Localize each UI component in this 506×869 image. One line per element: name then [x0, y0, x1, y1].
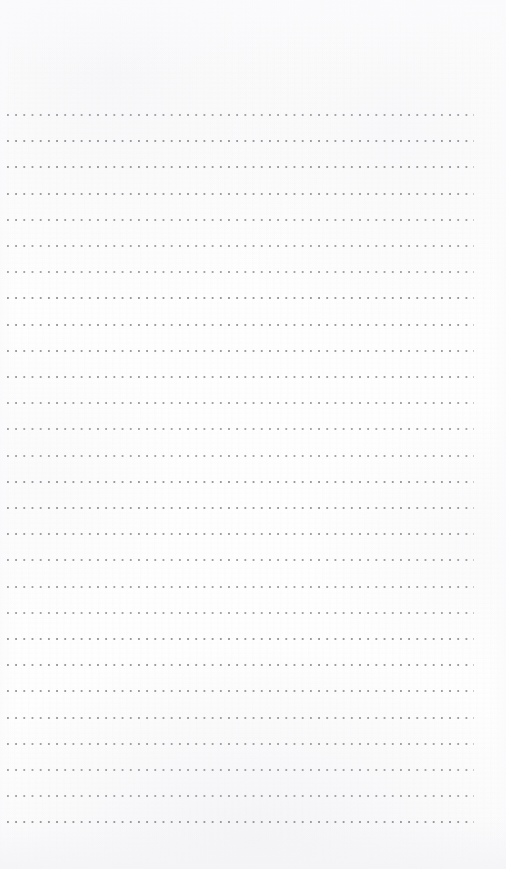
- ruled-dotted-line: [7, 350, 472, 352]
- ruled-line-end-dot: [473, 455, 474, 457]
- ruled-line-end-dot: [473, 821, 474, 823]
- ruled-dotted-line: [7, 507, 472, 509]
- ruled-line-end-dot: [473, 324, 474, 326]
- ruled-dotted-line: [7, 402, 472, 404]
- ruled-dotted-line: [7, 664, 472, 666]
- ruled-line-end-dot: [473, 586, 474, 588]
- ruled-line-end-dot: [473, 638, 474, 640]
- ruled-line-end-dot: [473, 507, 474, 509]
- ruled-line-end-dot: [473, 533, 474, 535]
- ruled-line-end-dot: [473, 428, 474, 430]
- ruled-dotted-line: [7, 586, 472, 588]
- ruled-line-end-dot: [473, 612, 474, 614]
- ruled-line-end-dot: [473, 271, 474, 273]
- ruled-dotted-line: [7, 717, 472, 719]
- ruled-dotted-line: [7, 533, 472, 535]
- ruled-line-end-dot: [473, 795, 474, 797]
- ruled-dotted-line: [7, 559, 472, 561]
- ruled-dotted-line: [7, 376, 472, 378]
- ruled-dotted-line: [7, 638, 472, 640]
- dotted-ruling-area: [0, 0, 506, 869]
- ruled-line-end-dot: [473, 690, 474, 692]
- ruled-dotted-line: [7, 324, 472, 326]
- ruled-dotted-line: [7, 271, 472, 273]
- ruled-line-end-dot: [473, 376, 474, 378]
- ruled-dotted-line: [7, 140, 472, 142]
- ruled-dotted-line: [7, 297, 472, 299]
- ruled-line-end-dot: [473, 297, 474, 299]
- ruled-dotted-line: [7, 612, 472, 614]
- ruled-line-end-dot: [473, 559, 474, 561]
- ruled-line-end-dot: [473, 481, 474, 483]
- ruled-dotted-line: [7, 481, 472, 483]
- ruled-dotted-line: [7, 428, 472, 430]
- ruled-line-end-dot: [473, 166, 474, 168]
- ruled-dotted-line: [7, 821, 472, 823]
- ruled-dotted-line: [7, 690, 472, 692]
- ruled-line-end-dot: [473, 219, 474, 221]
- ruled-line-end-dot: [473, 743, 474, 745]
- ruled-line-end-dot: [473, 350, 474, 352]
- ruled-dotted-line: [7, 795, 472, 797]
- notebook-page: [0, 0, 506, 869]
- ruled-dotted-line: [7, 166, 472, 168]
- ruled-line-end-dot: [473, 245, 474, 247]
- ruled-dotted-line: [7, 743, 472, 745]
- ruled-line-end-dot: [473, 193, 474, 195]
- bottom-margin-area: [0, 832, 506, 869]
- ruled-line-end-dot: [473, 140, 474, 142]
- ruled-line-end-dot: [473, 664, 474, 666]
- ruled-dotted-line: [7, 219, 472, 221]
- ruled-dotted-line: [7, 114, 472, 116]
- ruled-line-end-dot: [473, 402, 474, 404]
- ruled-dotted-line: [7, 193, 472, 195]
- ruled-dotted-line: [7, 245, 472, 247]
- ruled-line-end-dot: [473, 114, 474, 116]
- ruled-line-end-dot: [473, 769, 474, 771]
- ruled-dotted-line: [7, 455, 472, 457]
- ruled-line-end-dot: [473, 717, 474, 719]
- ruled-dotted-line: [7, 769, 472, 771]
